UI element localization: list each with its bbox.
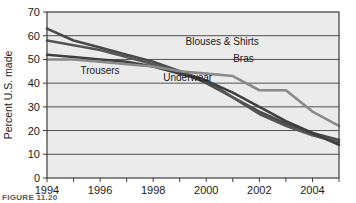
y-tick-label: 60 — [28, 30, 40, 42]
y-axis-title: Percent U.S. made — [2, 50, 14, 139]
y-tick-label: 0 — [34, 172, 40, 184]
line-chart: 199419961998200020022004 010203040506070… — [0, 0, 356, 203]
figure-container: 199419961998200020022004 010203040506070… — [0, 0, 356, 203]
x-tick-label: 2002 — [247, 184, 271, 196]
x-tick-label: 2000 — [194, 184, 218, 196]
x-tick-label: 1996 — [88, 184, 112, 196]
series-label-3: Bras — [233, 53, 254, 64]
series-label-1: Underwear — [163, 72, 213, 83]
series-label-2: Trousers — [81, 65, 120, 76]
y-axis-tick-labels: 010203040506070 — [28, 6, 40, 184]
y-axis-title-text: Percent U.S. made — [2, 50, 14, 139]
x-tick-label: 1998 — [141, 184, 165, 196]
x-axis-ticks — [47, 178, 339, 182]
y-tick-label: 40 — [28, 77, 40, 89]
x-tick-label: 2004 — [300, 184, 324, 196]
series-label-0: Blouses & Shirts — [186, 36, 259, 47]
y-tick-label: 10 — [28, 148, 40, 160]
y-tick-label: 20 — [28, 125, 40, 137]
y-tick-label: 70 — [28, 6, 40, 18]
y-tick-label: 50 — [28, 53, 40, 65]
y-tick-label: 30 — [28, 101, 40, 113]
x-axis-tick-labels: 199419961998200020022004 — [35, 184, 325, 196]
figure-caption: FIGURE 11.20 — [2, 193, 58, 203]
